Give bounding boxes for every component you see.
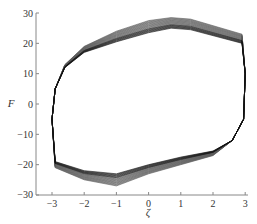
hysteresis-cycle bbox=[52, 25, 245, 177]
x-tick-label: 1 bbox=[178, 198, 183, 209]
y-tick-label: −10 bbox=[17, 129, 33, 140]
x-tick-label: −1 bbox=[111, 198, 122, 209]
y-tick-label: 30 bbox=[23, 8, 33, 19]
hysteresis-cycle bbox=[52, 22, 245, 181]
x-tick-label: −2 bbox=[79, 198, 90, 209]
hysteresis-cycle bbox=[52, 18, 245, 186]
y-tick-label: −30 bbox=[17, 189, 33, 200]
y-tick-label: 0 bbox=[28, 99, 33, 110]
hysteresis-cycle bbox=[52, 20, 245, 184]
hysteresis-cycle bbox=[52, 24, 245, 179]
y-tick-label: 20 bbox=[23, 38, 33, 49]
y-axis-label: F bbox=[7, 97, 15, 109]
hysteresis-cycle bbox=[52, 23, 245, 181]
hysteresis-cycle bbox=[52, 23, 245, 179]
hysteresis-chart: 3020100−10−20−30−3−2−10123 F ζ bbox=[0, 0, 257, 224]
hysteresis-cycle bbox=[52, 19, 245, 185]
x-tick-label: −3 bbox=[47, 198, 58, 209]
y-tick-label: −20 bbox=[17, 159, 33, 170]
hysteresis-cycle bbox=[52, 25, 245, 178]
y-tick-label: 10 bbox=[23, 68, 33, 79]
x-tick-label: 3 bbox=[243, 198, 248, 209]
hysteresis-cycle bbox=[52, 22, 245, 182]
hysteresis-cycle bbox=[52, 19, 245, 184]
hysteresis-cycle bbox=[52, 24, 245, 178]
hysteresis-curves bbox=[52, 18, 245, 186]
x-tick-label: 2 bbox=[211, 198, 216, 209]
hysteresis-cycle bbox=[52, 21, 245, 182]
hysteresis-cycle bbox=[52, 18, 245, 185]
hysteresis-cycle bbox=[52, 20, 245, 182]
hysteresis-cycle bbox=[52, 26, 245, 176]
